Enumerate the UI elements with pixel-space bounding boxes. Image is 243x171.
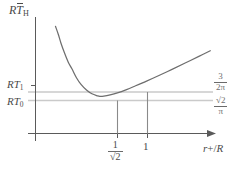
fraction-denominator: 2π <box>214 82 227 93</box>
annotation-lower-asymptote: √2 π <box>214 96 227 116</box>
fraction-denominator: √2 <box>108 151 123 163</box>
x-axis-tick-label-inv-sqrt-two: 1 √2 <box>108 140 123 163</box>
y-title-subscript: H <box>23 9 29 18</box>
y-tick-1-prefix: RT <box>7 78 20 90</box>
y-tick-0-prefix: RT <box>7 95 20 107</box>
fraction-sqrt-two-over-pi: √2 π <box>214 96 227 116</box>
x-title-var2: R <box>217 142 224 154</box>
y-title-symbol: T <box>16 3 23 17</box>
y-axis-tick-label-rt0: RT0 <box>7 96 24 109</box>
fraction-denominator: π <box>214 106 227 117</box>
hawking-temperature-figure: RTH RT1 RT0 1 √2 1 r+/R 3 2π √2 π <box>0 0 243 171</box>
y-title-symbol-overbar: T <box>16 4 23 16</box>
x-tick-one-text: 1 <box>143 140 149 152</box>
x-axis-title: r+/R <box>203 143 223 154</box>
temperature-curve <box>56 26 211 96</box>
fraction-one-over-sqrt-two: 1 √2 <box>108 140 123 163</box>
y-title-prefix: R <box>9 3 16 17</box>
x-axis-arrowhead <box>207 130 216 137</box>
x-axis-tick-label-one: 1 <box>143 141 149 152</box>
fraction-numerator: 1 <box>108 140 123 151</box>
y-axis-title: RTH <box>9 4 29 18</box>
fraction-numerator: √2 <box>214 96 227 106</box>
fraction-numerator: 3 <box>214 72 227 82</box>
annotation-upper-asymptote: 3 2π <box>214 72 227 92</box>
y-tick-0-subscript: 0 <box>20 100 24 109</box>
fraction-three-over-two-pi: 3 2π <box>214 72 227 92</box>
y-axis-tick-label-rt1: RT1 <box>7 79 24 92</box>
y-tick-1-subscript: 1 <box>20 83 24 92</box>
